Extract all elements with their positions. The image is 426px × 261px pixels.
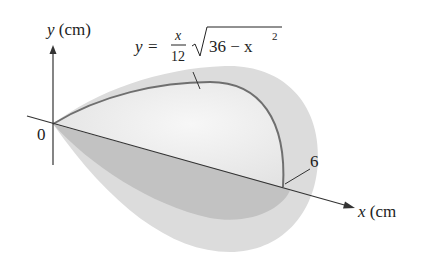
x-axis-label: x (cm [357, 202, 396, 221]
svg-text:x: x [174, 28, 182, 43]
svg-text:=: = [148, 37, 158, 56]
svg-text:2: 2 [272, 30, 278, 42]
solid-of-revolution-diagram: y (cm) 0 6 x (cm y = x 12 36 − x 2 [0, 0, 426, 261]
curve-equation: y = x 12 36 − x 2 [133, 27, 282, 64]
y-axis-arrow-icon [50, 45, 57, 54]
endpoint-label: 6 [310, 152, 319, 171]
x-axis-arrow-icon [343, 202, 355, 209]
svg-text:36 − x: 36 − x [209, 37, 253, 56]
svg-text:y: y [133, 37, 143, 56]
y-axis-label: y (cm) [45, 20, 91, 39]
origin-label: 0 [37, 125, 46, 144]
svg-text:12: 12 [171, 49, 185, 64]
